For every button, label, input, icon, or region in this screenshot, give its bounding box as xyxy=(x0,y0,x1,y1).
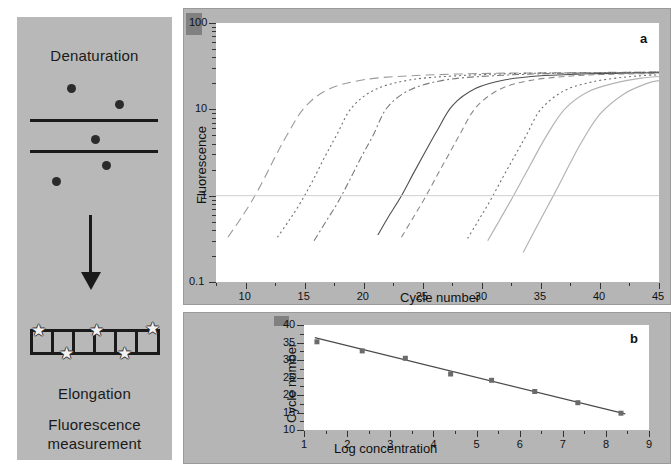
data-point xyxy=(489,378,494,383)
fluorescence-label-line2: measurement xyxy=(17,434,172,453)
y-tick xyxy=(212,256,216,257)
x-tick-label: 3 xyxy=(387,438,393,450)
y-tick xyxy=(212,123,216,124)
star-icon: ★ xyxy=(117,346,132,361)
y-tick xyxy=(212,204,216,205)
amplification-curve-dilution-4 xyxy=(378,73,659,235)
x-tick xyxy=(659,283,660,289)
y-tick xyxy=(212,27,216,28)
x-tick xyxy=(541,431,542,434)
y-tick xyxy=(212,230,216,231)
arrow-down-icon xyxy=(89,215,92,277)
circle-dot-icon xyxy=(67,84,76,93)
x-tick xyxy=(627,431,628,434)
y-tick-label: 10 xyxy=(195,102,207,114)
x-tick xyxy=(304,431,305,437)
y-tick xyxy=(212,170,216,171)
x-tick xyxy=(216,283,217,286)
charts-area: a Fluorescence 0.1110100 Cycle number 10… xyxy=(180,0,671,472)
amplification-curve-dilution-2 xyxy=(277,72,659,237)
y-tick xyxy=(209,109,216,110)
x-tick-label: 45 xyxy=(652,290,664,302)
y-tick xyxy=(209,23,216,24)
x-tick-label: 4 xyxy=(430,438,436,450)
y-tick-label: 30 xyxy=(283,353,295,365)
x-tick xyxy=(275,283,276,286)
x-tick xyxy=(364,283,365,289)
star-icon: ★ xyxy=(89,323,104,338)
y-tick-label: 100 xyxy=(189,16,207,28)
x-tick-label: 15 xyxy=(298,290,310,302)
y-tick-label: 10 xyxy=(283,423,295,435)
y-tick xyxy=(300,351,304,352)
x-tick-label: 25 xyxy=(416,290,428,302)
y-tick xyxy=(212,128,216,129)
circle-dot-icon xyxy=(91,135,100,144)
y-tick xyxy=(212,144,216,145)
panel-b-standard-curve: b Cycle number 10152025303540 Log concen… xyxy=(183,312,671,464)
x-tick-label: 2 xyxy=(344,438,350,450)
x-tick xyxy=(570,283,571,286)
x-tick xyxy=(482,283,483,289)
x-tick-label: 6 xyxy=(517,438,523,450)
standard-curve-points-group xyxy=(314,339,623,415)
y-tick xyxy=(300,421,304,422)
star-icon: ★ xyxy=(59,346,74,361)
data-point xyxy=(575,400,580,405)
x-tick xyxy=(246,283,247,289)
y-tick xyxy=(297,413,304,414)
y-tick xyxy=(212,200,216,201)
panel-a-xlabel: Cycle number xyxy=(400,290,480,305)
circle-dot-icon xyxy=(102,161,111,170)
y-tick xyxy=(212,222,216,223)
x-tick-label: 30 xyxy=(475,290,487,302)
x-tick xyxy=(433,431,434,437)
y-tick-label: 40 xyxy=(283,318,295,330)
x-tick xyxy=(584,431,585,434)
x-tick-label: 7 xyxy=(560,438,566,450)
denaturation-label: Denaturation xyxy=(17,47,172,64)
circle-dot-icon xyxy=(115,100,124,109)
amplification-curve-dilution-1 xyxy=(228,72,659,237)
y-tick xyxy=(297,343,304,344)
y-tick xyxy=(209,282,216,283)
plot-a-canvas xyxy=(216,23,659,282)
x-tick xyxy=(511,283,512,286)
x-tick xyxy=(334,283,335,286)
y-tick xyxy=(300,334,304,335)
x-tick xyxy=(477,431,478,437)
data-point xyxy=(448,372,453,377)
x-tick-label: 20 xyxy=(357,290,369,302)
x-tick xyxy=(452,283,453,286)
x-tick-label: 35 xyxy=(534,290,546,302)
amplification-curve-dilution-6 xyxy=(468,75,659,238)
y-tick xyxy=(212,83,216,84)
y-tick xyxy=(212,68,216,69)
dna-single-strand-upper xyxy=(30,119,158,122)
y-tick-label: 25 xyxy=(283,371,295,383)
y-tick xyxy=(297,430,304,431)
x-tick xyxy=(563,431,564,437)
star-icon: ★ xyxy=(31,323,46,338)
arrow-down-head-icon xyxy=(81,272,101,290)
x-tick xyxy=(498,431,499,434)
x-tick xyxy=(649,431,650,437)
x-tick-label: 8 xyxy=(603,438,609,450)
y-tick xyxy=(212,209,216,210)
y-tick-label: 20 xyxy=(283,388,295,400)
x-tick-label: 1 xyxy=(301,438,307,450)
y-tick xyxy=(212,42,216,43)
y-tick xyxy=(212,215,216,216)
y-tick xyxy=(300,369,304,370)
circle-dot-icon xyxy=(52,177,61,186)
y-tick xyxy=(297,325,304,326)
amplification-curve-dilution-5 xyxy=(401,74,659,238)
x-tick xyxy=(600,283,601,289)
x-tick-label: 5 xyxy=(474,438,480,450)
y-tick xyxy=(212,36,216,37)
y-tick xyxy=(212,57,216,58)
fluorescence-label-line1: Fluorescence xyxy=(17,415,172,434)
y-tick xyxy=(297,378,304,379)
panel-b-letter: b xyxy=(630,331,638,346)
data-point xyxy=(403,356,408,361)
